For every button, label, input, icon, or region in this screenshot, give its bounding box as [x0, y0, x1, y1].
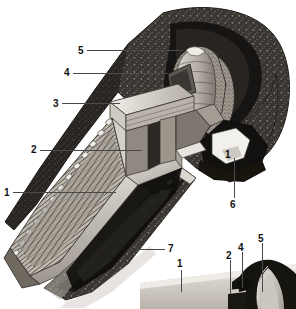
leader-line-5: [87, 50, 183, 51]
callout-label-5: 5: [78, 46, 84, 56]
callout-label-1-left: 1: [4, 188, 10, 198]
inset-leader-line-4: [242, 252, 243, 288]
inset-callout-label-2: 2: [226, 251, 232, 261]
inset-callout-label-4: 4: [238, 243, 244, 253]
leader-line-3: [62, 103, 120, 104]
tholos-tomb-cutaway-drawing: [0, 0, 296, 309]
inset-leader-line-2: [230, 260, 231, 294]
leader-line-4: [73, 73, 168, 74]
inset-leader-line-5: [262, 243, 263, 292]
callout-label-1-bottom: 1: [177, 259, 183, 269]
leader-line-1-left: [13, 192, 116, 193]
callout-label-4: 4: [64, 68, 70, 78]
leader-line-1-bottom: [181, 270, 182, 292]
inset-callout-label-5: 5: [258, 234, 264, 244]
leader-line-2: [40, 150, 142, 151]
callout-label-2: 2: [31, 145, 37, 155]
callout-label-3: 3: [53, 99, 59, 109]
callout-label-7: 7: [168, 244, 174, 254]
illustration-figure: 5 4 3 2 1 1 6 7 1 2 4 5: [0, 0, 296, 309]
leader-line-7: [140, 249, 165, 250]
callout-label-6: 6: [230, 200, 236, 210]
callout-label-1-right: 1: [225, 150, 231, 160]
leader-line-6: [234, 158, 235, 198]
